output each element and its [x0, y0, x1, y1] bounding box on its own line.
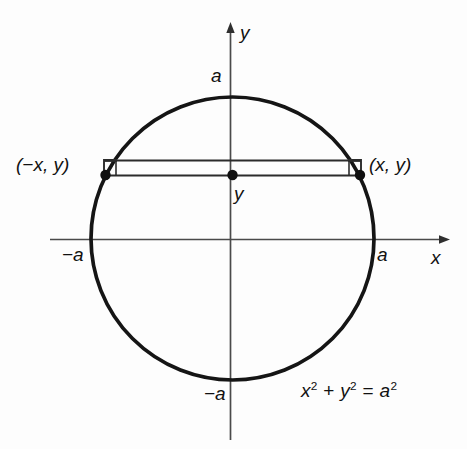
- equation-x: x: [301, 380, 311, 401]
- tick-label-x-positive-a: a: [377, 245, 388, 264]
- equation-y: y: [340, 380, 350, 401]
- y-axis-label: y: [240, 23, 250, 42]
- midpoint-label: y: [234, 184, 244, 203]
- x-axis-label: x: [431, 248, 441, 267]
- circle-equation-label: x2 + y2 = a2: [301, 381, 397, 400]
- equation-equals: =: [363, 380, 374, 401]
- right-point-label: (x, y): [369, 155, 411, 174]
- equation-y-exponent: 2: [350, 379, 357, 392]
- circle-curve: [91, 97, 374, 380]
- midpoint-dot: [227, 170, 237, 180]
- equation-a-exponent: 2: [390, 379, 397, 392]
- left-point-label: (−x, y): [16, 155, 69, 174]
- left-point-dot: [100, 170, 110, 180]
- tick-label-x-negative-a: −a: [62, 245, 84, 264]
- right-point-dot: [355, 170, 365, 180]
- tick-label-y-negative-a: −a: [204, 384, 226, 403]
- equation-x-exponent: 2: [311, 379, 318, 392]
- circle-diagram-figure: y x a −a a −a (−x, y) (x, y) y x2 + y2 =…: [0, 0, 467, 449]
- equation-plus: +: [323, 380, 334, 401]
- tick-label-y-positive-a: a: [211, 66, 222, 85]
- equation-a: a: [380, 380, 391, 401]
